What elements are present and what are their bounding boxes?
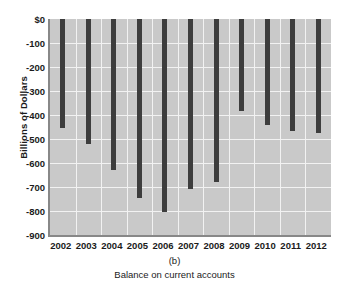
x-tick-label-2009: 2009 bbox=[229, 240, 250, 251]
vertical-gridline bbox=[229, 19, 230, 235]
chart-figure: Billions of Dollars $0-100-200-300-400-5… bbox=[0, 0, 349, 287]
bar-2006 bbox=[162, 19, 167, 212]
bar-2009 bbox=[239, 19, 244, 111]
vertical-gridline bbox=[127, 19, 128, 235]
bar-2011 bbox=[290, 19, 295, 131]
vertical-gridline bbox=[280, 19, 281, 235]
y-tick-label: -300 bbox=[0, 86, 45, 97]
vertical-gridline bbox=[76, 19, 77, 235]
y-tick-label: -100 bbox=[0, 38, 45, 49]
y-tick-label: -400 bbox=[0, 110, 45, 121]
bar-2008 bbox=[214, 19, 219, 182]
x-tick-label-2004: 2004 bbox=[101, 240, 122, 251]
x-tick-label-2007: 2007 bbox=[178, 240, 199, 251]
vertical-gridline bbox=[305, 19, 306, 235]
y-tick-label: -700 bbox=[0, 182, 45, 193]
bar-2012 bbox=[316, 19, 321, 133]
y-tick-label: -800 bbox=[0, 206, 45, 217]
horizontal-gridline bbox=[50, 211, 331, 212]
chart-caption: Balance on current accounts bbox=[0, 269, 349, 280]
vertical-gridline bbox=[101, 19, 102, 235]
bar-2007 bbox=[188, 19, 193, 189]
y-tick-label: -900 bbox=[0, 230, 45, 241]
y-tick-label: -200 bbox=[0, 62, 45, 73]
x-tick-label-2003: 2003 bbox=[76, 240, 97, 251]
x-tick-label-2012: 2012 bbox=[306, 240, 327, 251]
x-tick-label-2011: 2011 bbox=[280, 240, 301, 251]
panel-letter: (b) bbox=[0, 255, 349, 266]
vertical-gridline bbox=[203, 19, 204, 235]
y-tick-label: -500 bbox=[0, 134, 45, 145]
x-tick-label-2008: 2008 bbox=[203, 240, 224, 251]
x-tick-label-2002: 2002 bbox=[50, 240, 71, 251]
bar-2010 bbox=[265, 19, 270, 125]
vertical-gridline bbox=[152, 19, 153, 235]
bar-2002 bbox=[60, 19, 65, 128]
bar-2005 bbox=[137, 19, 142, 198]
x-tick-label-2010: 2010 bbox=[255, 240, 276, 251]
vertical-gridline bbox=[178, 19, 179, 235]
y-tick-label: $0 bbox=[0, 14, 45, 25]
x-tick-label-2005: 2005 bbox=[127, 240, 148, 251]
x-tick-label-2006: 2006 bbox=[152, 240, 173, 251]
bar-2004 bbox=[111, 19, 116, 170]
bar-2003 bbox=[86, 19, 91, 144]
vertical-gridline bbox=[254, 19, 255, 235]
y-tick-label: -600 bbox=[0, 158, 45, 169]
plot-area bbox=[48, 19, 331, 237]
